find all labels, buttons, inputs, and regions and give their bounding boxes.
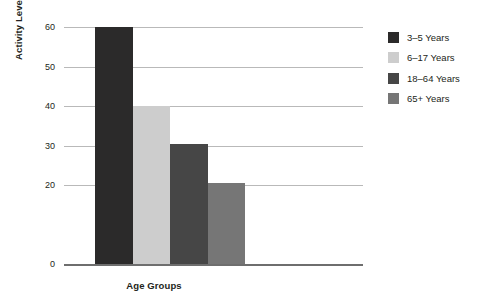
legend: 3–5 Years6–17 Years18–64 Years65+ Years <box>388 27 492 109</box>
bar <box>170 144 208 264</box>
legend-swatch-icon <box>388 52 399 63</box>
legend-swatch-icon <box>388 73 399 84</box>
legend-item-label: 18–64 Years <box>407 73 460 84</box>
y-axis-tick-label: 0 <box>50 259 55 269</box>
bar <box>133 106 171 264</box>
y-axis-title: Activity Level per Minutes <box>13 0 33 80</box>
y-axis-tick-label: 20 <box>45 180 55 190</box>
y-axis-tick-label: 40 <box>45 101 55 111</box>
legend-item[interactable]: 6–17 Years <box>388 48 492 69</box>
legend-item[interactable]: 18–64 Years <box>388 68 492 89</box>
x-axis-title: Age Groups <box>64 280 244 291</box>
legend-item-label: 6–17 Years <box>407 52 455 63</box>
bars-group <box>95 27 245 264</box>
legend-item-label: 3–5 Years <box>407 32 449 43</box>
legend-swatch-icon <box>388 93 399 104</box>
x-axis-line <box>64 264 363 266</box>
y-axis-tick-label: 50 <box>45 62 55 72</box>
legend-item-label: 65+ Years <box>407 93 450 104</box>
plot-area: 60504030200 <box>64 27 363 264</box>
y-axis-tick-label: 30 <box>45 141 55 151</box>
legend-item[interactable]: 3–5 Years <box>388 27 492 48</box>
y-axis-tick-label: 60 <box>45 22 55 32</box>
bar-chart: Activity Level per Minutes 60504030200 A… <box>0 0 496 303</box>
legend-item[interactable]: 65+ Years <box>388 89 492 110</box>
bar <box>208 183 246 264</box>
bar <box>95 27 133 264</box>
legend-swatch-icon <box>388 32 399 43</box>
